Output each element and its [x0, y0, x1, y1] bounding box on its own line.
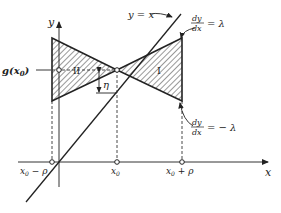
y-axis-label: y [47, 16, 55, 29]
tick-rest: + ρ [175, 166, 194, 176]
tick-x0: x0 [111, 166, 120, 177]
g-x0-close: ) [24, 65, 30, 76]
tick-x0-plus-rho: x0 + ρ [166, 166, 194, 177]
slope-pos-rhs: = λ [207, 18, 225, 29]
x-axis-label: x [265, 166, 272, 179]
region-ii-label: II [73, 66, 81, 76]
tick-x0-minus-rho: x0 − ρ [20, 166, 48, 177]
slope-neg-num: dy [192, 118, 202, 127]
point-x0 [115, 160, 120, 165]
tick-sub: 0 [116, 170, 120, 177]
g-x0-main: g(x [2, 65, 21, 76]
point-vertex [115, 68, 120, 73]
region-i-label: I [157, 65, 161, 76]
slope-neg-den: dx [192, 128, 202, 137]
slope-pos-num: dy [192, 14, 202, 23]
g-x0-label: g(x0) [2, 65, 30, 78]
slope-pos-den: dx [192, 24, 202, 33]
region-i [117, 38, 182, 101]
tick-rest: − ρ [29, 166, 48, 176]
point-x0-minus-rho [50, 160, 55, 165]
point-g-x0-on-y-axis [57, 68, 62, 73]
point-x0-plus-rho [180, 160, 185, 165]
slope-neg-rhs: = − λ [207, 122, 236, 133]
eta-label: η [103, 79, 109, 90]
lipschitz-cone-diagram: y x y = x g(x0) II I η dy dx = λ dy dx =… [0, 0, 281, 213]
line-label: y = x [127, 9, 154, 20]
line-y-equals-x [26, 14, 181, 202]
